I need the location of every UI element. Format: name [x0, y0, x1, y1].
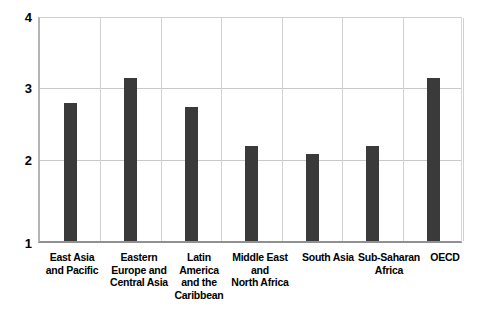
- y-axis-tick-2: 2: [8, 154, 32, 167]
- x-axis-label-middle-east-and-north-africa: Middle EastandNorth Africa: [222, 251, 298, 289]
- bar-latin-america-and-the-caribbean: [185, 107, 198, 241]
- x-axis-label-eastern-europe-and-central-asia: EasternEurope andCentral Asia: [104, 251, 174, 289]
- gridline-x-5: [342, 18, 343, 241]
- bar-middle-east-and-north-africa: [245, 146, 258, 241]
- gridline-x-4: [282, 18, 283, 241]
- gridline-x-6: [403, 18, 404, 241]
- bar-east-asia-and-pacific: [64, 103, 77, 241]
- x-axis-label-oecd: OECD: [421, 251, 469, 264]
- bar-eastern-europe-and-central-asia: [124, 78, 137, 241]
- gridline-x-2: [161, 18, 162, 241]
- bar-oecd: [427, 78, 440, 241]
- gridline-x-3: [221, 18, 222, 241]
- gridline-x-1: [100, 18, 101, 241]
- x-axis-label-sub-saharan-africa: Sub-SaharanAfrica: [350, 251, 428, 276]
- y-axis-tick-4: 4: [8, 11, 32, 24]
- gridline-y-3: [40, 88, 461, 89]
- bar-south-asia: [306, 154, 319, 241]
- x-axis-label-east-asia-and-pacific: East Asiaand Pacific: [36, 251, 108, 276]
- gridline-x-7: [463, 18, 464, 241]
- bar-chart: 4 3 2 1 East Asiaand Pacific EasternEuro…: [0, 0, 484, 317]
- y-axis-tick-3: 3: [8, 82, 32, 95]
- bar-sub-saharan-africa: [366, 146, 379, 241]
- y-axis-tick-1: 1: [8, 237, 32, 250]
- x-axis-label-latin-america-and-the-caribbean: LatinAmericaand theCaribbean: [168, 251, 230, 301]
- plot-area: [38, 17, 462, 243]
